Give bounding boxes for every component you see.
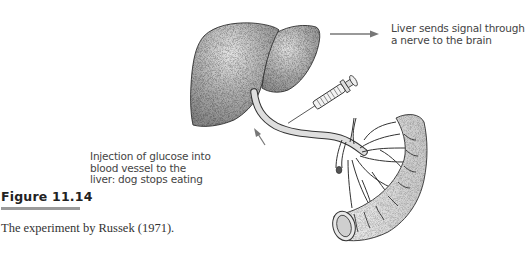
- injection-label: Injection of glucose into blood vessel t…: [90, 151, 211, 186]
- intestine: [329, 115, 427, 244]
- signal-label-line: a nerve to the brain: [391, 35, 525, 47]
- figure-rule: [1, 207, 80, 210]
- signal-label-line: Liver sends signal through: [391, 23, 525, 35]
- figure-number: Figure 11.14: [1, 189, 93, 204]
- injection-label-line: liver: dog stops eating: [90, 174, 211, 186]
- injection-label-line: Injection of glucose into: [90, 151, 211, 163]
- figure-caption: The experiment by Russek (1971).: [1, 221, 174, 236]
- signal-arrow: [330, 31, 379, 38]
- signal-label: Liver sends signal through a nerve to th…: [391, 23, 525, 46]
- injection-arrow: [254, 128, 265, 145]
